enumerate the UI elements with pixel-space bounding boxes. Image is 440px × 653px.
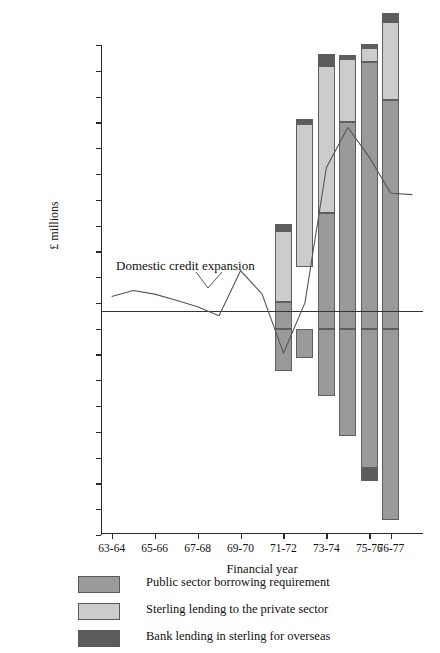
legend-label: Public sector borrowing requirement: [146, 575, 330, 590]
legend-item: Bank lending in sterling for overseas: [78, 627, 440, 653]
x-tick-mark: [112, 534, 113, 539]
x-tick-mark: [326, 534, 327, 539]
x-tick-mark: [241, 534, 242, 539]
x-tick-mark: [283, 534, 284, 539]
x-axis-ticks: 63-6465-6667-6869-7071-7273-7475-7676-77: [101, 534, 423, 564]
x-tick-label: 76-77: [377, 543, 404, 555]
legend-swatch: [78, 603, 120, 620]
chart-legend: Public sector borrowing requirementSterl…: [78, 573, 440, 653]
legend-item: Sterling lending to the private sector: [78, 600, 440, 627]
x-tick-mark: [391, 534, 392, 539]
legend-swatch: [78, 630, 120, 647]
x-tick-mark: [198, 534, 199, 539]
x-tick-label: 69-70: [227, 543, 254, 555]
domestic-credit-expansion-label: Domestic credit expansion: [116, 258, 255, 274]
x-tick-label: 73-74: [313, 543, 340, 555]
x-tick-mark: [155, 534, 156, 539]
legend-item: Public sector borrowing requirement: [78, 573, 440, 600]
legend-swatch: [78, 576, 120, 593]
legend-label: Sterling lending to the private sector: [146, 602, 328, 617]
chart-root: 11,00010,0009000800070006000500040003000…: [0, 0, 440, 653]
x-tick-label: 71-72: [270, 543, 297, 555]
x-tick-label: 63-64: [98, 543, 125, 555]
x-tick-mark: [369, 534, 370, 539]
x-tick-label: 65-66: [141, 543, 168, 555]
x-tick-label: 67-68: [184, 543, 211, 555]
legend-label: Bank lending in sterling for overseas: [146, 629, 330, 644]
